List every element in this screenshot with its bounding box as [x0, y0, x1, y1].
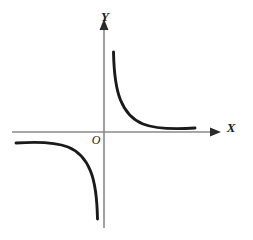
x-axis-arrowhead-icon: [210, 128, 221, 137]
y-axis-label: Y: [101, 9, 110, 24]
hyperbola-branch-quadrant-3: [16, 142, 98, 219]
hyperbola-figure: Y X O: [0, 0, 253, 240]
coordinate-plane-svg: Y X O: [0, 0, 253, 240]
hyperbola-branch-quadrant-1: [114, 52, 196, 129]
origin-label: O: [92, 133, 101, 147]
x-axis-label: X: [226, 120, 236, 135]
